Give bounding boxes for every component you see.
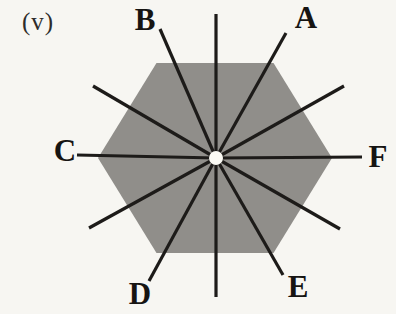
hexagon-symmetry-diagram: (v) A B C D E F [0,0,396,314]
axis-label-D: D [129,276,151,311]
axis-label-C: C [54,133,76,168]
symmetry-ray-right-F [216,157,362,158]
axis-label-A: A [295,0,318,35]
hexagon-symmetry-figure: (v) A B C D E F [0,0,396,314]
center-dot [209,151,223,165]
figure-index-label: (v) [22,8,54,36]
axis-label-B: B [135,2,156,37]
axis-label-F: F [369,139,388,174]
axis-label-E: E [288,269,309,304]
